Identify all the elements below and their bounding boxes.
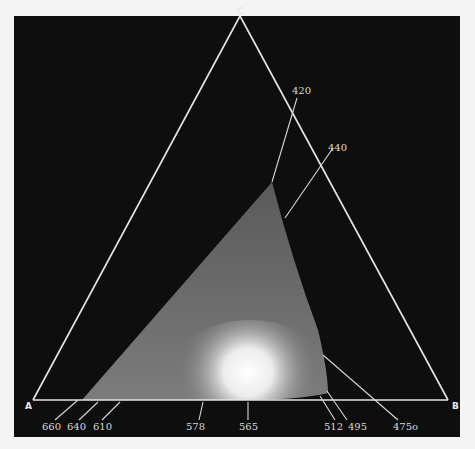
wavelength-label-640: 640 — [67, 421, 86, 432]
vertex-label-a: A — [25, 401, 32, 411]
wavelength-label-420: 420 — [292, 85, 311, 96]
vertex-label-b: B — [452, 401, 459, 411]
chromaticity-diagram: C A B 420 440 660 640 610 578 565 512 49… — [0, 0, 475, 449]
wavelength-label-565: 565 — [239, 421, 258, 432]
white-hotspot — [172, 320, 328, 424]
vertex-label-c: C — [237, 6, 244, 16]
wavelength-label-495: 495 — [348, 421, 367, 432]
wavelength-label-440: 440 — [328, 142, 347, 153]
wavelength-label-512: 512 — [324, 421, 343, 432]
wavelength-label-475: 475o — [393, 421, 418, 432]
wavelength-label-578: 578 — [186, 421, 205, 432]
wavelength-label-660: 660 — [42, 421, 61, 432]
wavelength-label-610: 610 — [93, 421, 112, 432]
